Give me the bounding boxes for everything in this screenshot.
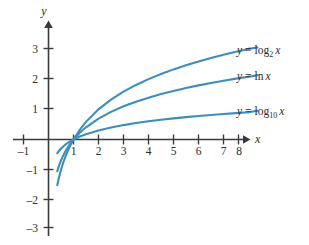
chart-canvas: –1 1 2 3 4 5 6 7 8 3 2 1 –1 –2 –3 x y <box>0 0 309 245</box>
series-label-ln-arg: x <box>265 70 272 82</box>
series-label-ln-eq: = <box>245 70 252 82</box>
axes-group <box>13 21 251 237</box>
x-tick-label-4: 4 <box>146 145 152 157</box>
x-tick-label-7: 7 <box>221 145 227 157</box>
series-label-log10-arg: x <box>278 105 285 117</box>
series-label-log10-y: y <box>236 105 243 118</box>
series-label-log10-base: 10 <box>269 111 277 120</box>
curve-ln <box>57 77 248 172</box>
x-tick-label-8: 8 <box>236 145 242 157</box>
x-tick-label-5: 5 <box>171 145 177 157</box>
series-label-log2-base: 2 <box>269 50 273 59</box>
series-label-log2-arg: x <box>274 44 281 56</box>
logarithm-functions-chart: –1 1 2 3 4 5 6 7 8 3 2 1 –1 –2 –3 x y <box>0 0 309 245</box>
y-tick-label--1: –1 <box>26 164 39 176</box>
series-label-log10-eq: = <box>245 105 252 117</box>
x-tick-label-6: 6 <box>196 145 202 157</box>
series-label-ln-y: y <box>236 70 243 83</box>
curves-group <box>57 49 248 185</box>
y-tick-label-3: 3 <box>32 43 38 55</box>
series-label-log10-func: log <box>255 105 270 118</box>
y-axis-label: y <box>40 4 47 18</box>
y-tick-label--3: –3 <box>26 222 39 234</box>
curve-log2 <box>57 49 248 185</box>
x-tick-label-2: 2 <box>96 145 102 157</box>
y-tick-labels: 3 2 1 –1 –2 –3 <box>26 43 39 234</box>
y-tick-label-1: 1 <box>32 103 38 115</box>
y-axis-arrowhead <box>44 21 53 29</box>
y-tick-label-2: 2 <box>32 73 38 85</box>
y-tick-label--2: –2 <box>26 194 39 206</box>
series-label-log2: y=log2x <box>236 44 281 59</box>
x-axis-arrowhead <box>243 135 251 144</box>
series-labels: y=log2x y=lnx y=log10x <box>236 44 285 120</box>
x-tick-label--1: –1 <box>17 145 30 157</box>
series-label-log2-eq: = <box>245 44 252 56</box>
series-label-ln: y=lnx <box>236 70 272 83</box>
x-tick-label-1: 1 <box>71 145 77 157</box>
series-label-log2-y: y <box>236 44 243 57</box>
series-label-log2-func: log <box>255 44 270 57</box>
x-axis-label: x <box>254 132 261 146</box>
series-label-ln-func: ln <box>255 70 264 82</box>
x-tick-label-3: 3 <box>121 145 127 157</box>
x-tick-labels: –1 1 2 3 4 5 6 7 8 <box>17 145 242 157</box>
